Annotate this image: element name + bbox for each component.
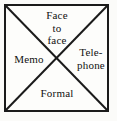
quadrant-label-left: Memo: [8, 53, 50, 66]
quadrant-label-right: Tele- phone: [72, 46, 110, 71]
media-richness-square-diagram: Face to face Tele- phone Formal Memo: [0, 0, 117, 121]
quadrant-label-top: Face to face: [30, 9, 84, 47]
quadrant-label-bottom: Formal: [30, 87, 84, 100]
